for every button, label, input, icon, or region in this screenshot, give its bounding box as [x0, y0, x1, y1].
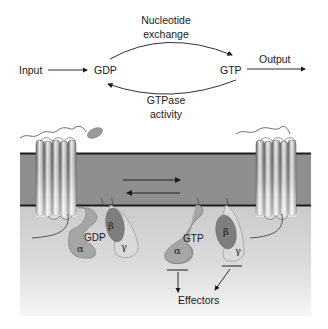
gtp-label: GTP — [220, 64, 242, 76]
nucleotide-exchange-line2: exchange — [132, 28, 200, 40]
gdp-label: GDP — [94, 64, 117, 76]
gtp-bound-label: GTP — [183, 233, 204, 245]
nucleotide-exchange-arrow — [110, 42, 232, 59]
gtpase-activity-arrow — [108, 80, 236, 94]
gdp-bound-label: GDP — [84, 232, 106, 244]
nucleotide-exchange-line1: Nucleotide — [132, 14, 200, 26]
active-alpha-label: α — [174, 245, 181, 257]
gamma-label: γ — [121, 241, 127, 253]
ligand — [86, 126, 104, 141]
cytoplasm — [20, 206, 311, 316]
effectors-label: Effectors — [178, 294, 219, 306]
beta-label: β — [108, 220, 114, 232]
output-label: Output — [259, 53, 291, 65]
gtpase-activity-line2: activity — [140, 108, 192, 120]
nucleotide-exchange-label: Nucleotide exchange — [132, 14, 200, 40]
active-gamma-label: γ — [235, 245, 241, 257]
signaling-diagram — [0, 0, 328, 329]
gtpase-activity-line1: GTPase — [140, 94, 192, 106]
input-label: Input — [19, 64, 42, 76]
alpha-label: α — [77, 243, 84, 255]
gtp-cycle — [48, 42, 305, 94]
gtpase-activity-label: GTPase activity — [140, 94, 192, 120]
active-beta-label: β — [223, 226, 229, 238]
